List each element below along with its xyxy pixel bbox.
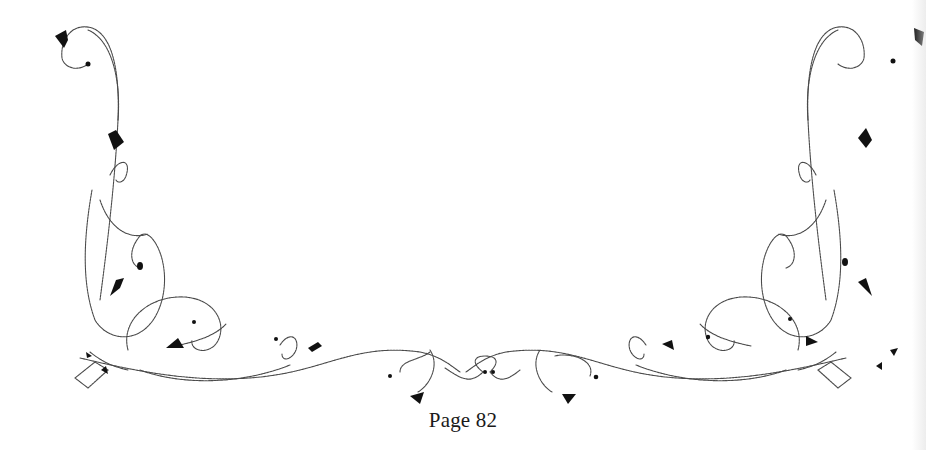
right-vine-ornament [466, 27, 864, 388]
page-number: Page 82 [0, 408, 926, 433]
page-edge-shadow [912, 0, 926, 450]
vine-ornament-border [0, 0, 926, 450]
left-vine-ornament [62, 27, 460, 388]
leaf-ornaments [55, 28, 924, 404]
document-page: Page 82 [0, 0, 926, 450]
center-knot-ornament [400, 350, 591, 392]
